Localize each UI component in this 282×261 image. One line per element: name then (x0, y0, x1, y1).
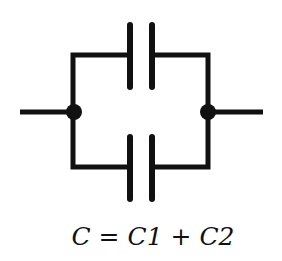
left-junction-node (66, 104, 82, 120)
top-branch-left-wire (73, 55, 130, 112)
capacitance-equation: C = C1 + C2 (12, 222, 282, 251)
equation-term-c1: C1 (128, 222, 163, 251)
top-branch-right-wire (152, 55, 208, 112)
equation-term-c2: C2 (199, 222, 234, 251)
bottom-branch-right-wire (152, 112, 208, 167)
equation-lhs: C (72, 222, 91, 251)
right-junction-node (200, 104, 216, 120)
plus-sign: + (163, 222, 200, 251)
equals-sign: = (91, 222, 128, 251)
bottom-branch-left-wire (73, 112, 130, 167)
